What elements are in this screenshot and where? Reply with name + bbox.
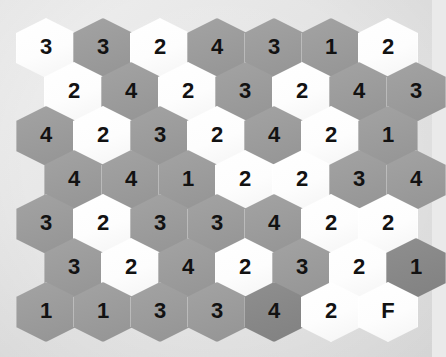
hex-cell-value: 3 [239,80,251,102]
hex-cell-value: 3 [40,36,52,58]
hex-cell-value: 4 [410,168,422,190]
hex-cell-value: 4 [40,124,52,146]
hex-cell-value: 2 [325,212,337,234]
hex-cell-value: 2 [239,168,251,190]
hex-cell-value: 3 [211,212,223,234]
hex-cell-value: 4 [211,36,223,58]
hex-cell-value: 2 [325,300,337,322]
hex-cell-value: 1 [325,36,337,58]
hex-cell-value: 3 [353,168,365,190]
hex-cell-value: 4 [182,256,194,278]
hex-cell-value: 3 [154,124,166,146]
hex-cell-value: 2 [296,168,308,190]
hex-cell-value: 2 [211,124,223,146]
hex-cell-value: 1 [182,168,194,190]
hex-cell-value: 4 [268,300,280,322]
hex-cell-value: 4 [125,80,137,102]
hex-cell-value: 2 [382,212,394,234]
hex-cell-value: 3 [296,256,308,278]
hex-cell-value: 2 [68,80,80,102]
hex-cell-value: 3 [97,36,109,58]
hex-cell-value: 2 [182,80,194,102]
hex-cell-value: 1 [410,256,422,278]
hex-cell-value: 4 [268,212,280,234]
hex-cell-value: 1 [97,300,109,322]
hex-cell-value: 2 [97,212,109,234]
hex-cell-value: 1 [40,300,52,322]
hex-cell-value: 2 [325,124,337,146]
hex-cell-value: 2 [382,36,394,58]
hex-cell-value: 3 [268,36,280,58]
hex-cell-value: 4 [268,124,280,146]
hex-cell-value: 2 [353,256,365,278]
hex-cell-value: F [381,300,394,322]
hex-cell-value: 1 [382,124,394,146]
hex-cell-value: 4 [125,168,137,190]
hex-cell-value: 2 [154,36,166,58]
hex-cell-value: 2 [125,256,137,278]
hex-cell-value: 3 [68,256,80,278]
hex-cell-value: 3 [40,212,52,234]
hex-cell-value: 4 [68,168,80,190]
hex-cell-value: 3 [154,212,166,234]
hex-cell-value: 3 [211,300,223,322]
hex-cell-value: 2 [239,256,251,278]
hex-cell-value: 2 [97,124,109,146]
hex-cell-value: 3 [154,300,166,322]
hex-cell-value: 3 [410,80,422,102]
hex-cell-value: 2 [296,80,308,102]
hex-cell-value: 4 [353,80,365,102]
